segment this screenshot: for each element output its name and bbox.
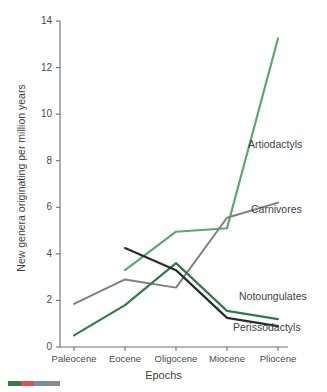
series-label-notoungulates: Notoungulates	[239, 291, 307, 302]
series-label-carnivores: Carnivores	[251, 204, 302, 215]
series-line-artiodactyls	[125, 38, 278, 270]
footer-swatch-segment	[47, 381, 60, 386]
y-tick-label: 14	[30, 16, 52, 26]
footer-swatch-segment	[21, 381, 34, 386]
plot-canvas	[0, 0, 327, 392]
footer-swatch-segment	[8, 381, 21, 386]
y-tick-label: 2	[30, 295, 52, 305]
footer-swatch-segment	[34, 381, 47, 386]
y-tick-label: 12	[30, 63, 52, 73]
y-axis-title: New genera originating per million years	[15, 53, 27, 303]
footer-color-swatch	[8, 381, 60, 386]
y-tick-label: 10	[30, 109, 52, 119]
line-chart: 02468101214 PaleoceneEoceneOligoceneMioc…	[0, 0, 327, 392]
y-tick-label: 8	[30, 156, 52, 166]
y-tick-label: 4	[30, 249, 52, 259]
x-tick-label-pliocene: Pliocene	[238, 354, 318, 364]
series-label-perissodactyls: Perissodactyls	[233, 322, 301, 333]
series-label-artiodactyls: Artiodactyls	[248, 139, 302, 150]
y-tick-label: 6	[30, 202, 52, 212]
y-tick-label: 0	[30, 342, 52, 352]
series-line-carnivores	[74, 203, 278, 304]
x-axis-title: Epochs	[0, 369, 327, 381]
